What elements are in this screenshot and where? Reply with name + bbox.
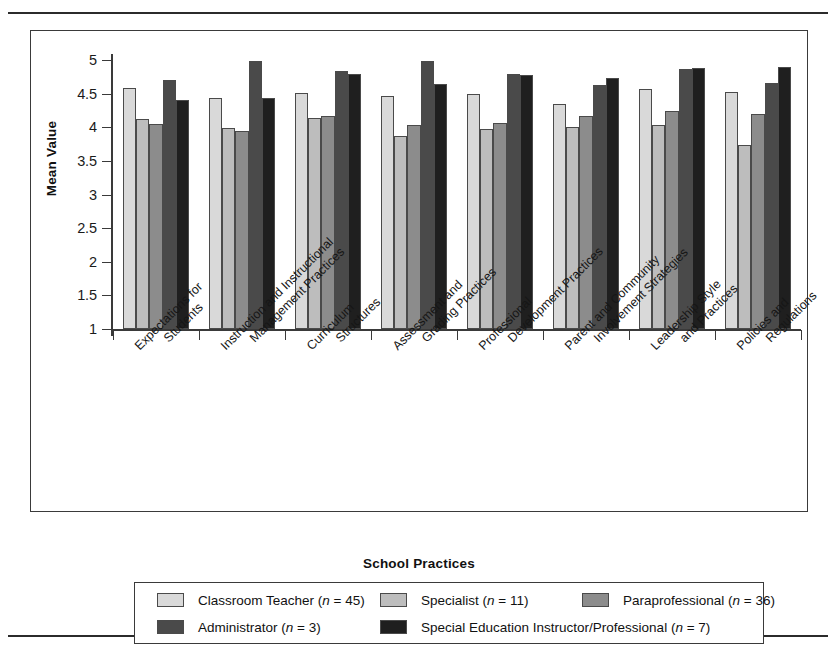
legend-swatch	[380, 593, 407, 607]
bar	[136, 119, 149, 329]
bar-group	[381, 31, 447, 329]
bar	[507, 74, 520, 329]
page-top-rule	[8, 12, 828, 14]
legend-label: Specialist (n = 11)	[421, 593, 528, 608]
bar	[566, 127, 579, 329]
bar	[493, 123, 506, 329]
bar	[394, 136, 407, 329]
bar	[579, 116, 592, 329]
legend-label: Special Education Instructor/Professiona…	[421, 620, 710, 635]
bar-group	[123, 31, 189, 329]
legend-item[interactable]: Paraprofessional (n = 36)	[582, 587, 775, 613]
bar	[765, 83, 778, 329]
legend-item[interactable]: Administrator (n = 3)	[157, 614, 321, 640]
legend-label: Paraprofessional (n = 36)	[623, 593, 775, 608]
legend-item[interactable]: Special Education Instructor/Professiona…	[380, 614, 710, 640]
legend-label: Classroom Teacher (n = 45)	[198, 593, 365, 608]
bar-group	[725, 31, 791, 329]
legend-label: Administrator (n = 3)	[198, 620, 321, 635]
bar	[335, 71, 348, 329]
bar	[235, 131, 248, 329]
bar	[249, 61, 262, 329]
chart-page: 11.522.533.544.55 Mean Value Expectation…	[0, 0, 836, 663]
bar	[593, 85, 606, 329]
bar	[149, 124, 162, 329]
bar	[222, 128, 235, 329]
legend-swatch	[582, 593, 609, 607]
bar-group	[209, 31, 275, 329]
bar	[381, 96, 394, 329]
bar	[407, 125, 420, 329]
bar	[480, 129, 493, 329]
bar	[421, 61, 434, 329]
bar	[321, 116, 334, 329]
x-axis-title: School Practices	[31, 556, 807, 571]
bar	[163, 80, 176, 329]
bar	[308, 118, 321, 329]
bar	[751, 114, 764, 329]
bar	[123, 88, 136, 329]
plot-frame: 11.522.533.544.55 Mean Value Expectation…	[30, 30, 808, 512]
bar	[652, 125, 665, 329]
bar	[679, 69, 692, 329]
bar	[665, 111, 678, 329]
legend-row-1: Classroom Teacher (n = 45)Specialist (n …	[135, 587, 763, 613]
legend-swatch	[157, 593, 184, 607]
legend-swatch	[157, 620, 184, 634]
legend-item[interactable]: Classroom Teacher (n = 45)	[157, 587, 365, 613]
legend-item[interactable]: Specialist (n = 11)	[380, 587, 528, 613]
legend-swatch	[380, 620, 407, 634]
chart-legend: Classroom Teacher (n = 45)Specialist (n …	[134, 582, 764, 644]
bar	[738, 145, 751, 329]
legend-row-2: Administrator (n = 3)Special Education I…	[135, 614, 763, 640]
bar-series-container	[31, 31, 807, 511]
